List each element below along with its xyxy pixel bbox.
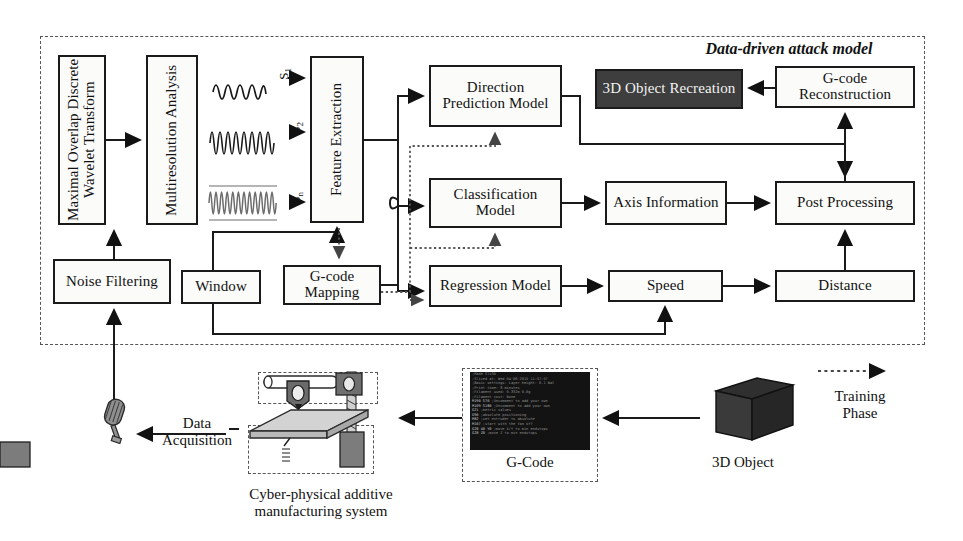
edge-direction-to-post — [562, 96, 845, 176]
connector-overlay — [0, 0, 963, 541]
edge-feature-bus-classification — [390, 198, 423, 209]
microphone-icon — [102, 397, 126, 443]
edge-gcode-mapping-to-classification-dotted — [410, 234, 495, 248]
signal-2-waveform — [210, 132, 274, 154]
printer-illustration — [0, 372, 368, 467]
signal-n-waveform — [209, 186, 277, 220]
edge-window-to-speed — [213, 304, 665, 334]
signal-1-waveform — [213, 85, 266, 99]
edge-window-to-feature — [213, 228, 337, 270]
cube-3d-object-icon — [716, 378, 793, 440]
figure-canvas: Data-driven attack model Maximal Overlap… — [0, 0, 963, 541]
edge-feature-bus-down — [398, 140, 423, 291]
edge-feature-bus — [364, 96, 423, 140]
